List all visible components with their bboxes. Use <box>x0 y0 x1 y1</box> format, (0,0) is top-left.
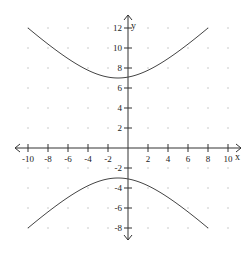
hyperbola-graph: x y -10-8-6-4-224681012108642-2-4-6-8 <box>0 0 252 257</box>
grid-dot <box>168 28 169 29</box>
grid-dot <box>108 68 109 69</box>
grid-dot <box>88 108 89 109</box>
grid-dot <box>68 208 69 209</box>
grid-dot <box>168 228 169 229</box>
grid-dot <box>68 168 69 169</box>
x-tick-label: 6 <box>186 154 191 164</box>
grid-dot <box>48 228 49 229</box>
grid-dot <box>148 188 149 189</box>
grid-dot <box>228 128 229 129</box>
grid-dot <box>188 108 189 109</box>
x-tick-label: 4 <box>166 154 171 164</box>
grid-dot <box>208 188 209 189</box>
grid-dot <box>48 108 49 109</box>
x-tick-label: 10 <box>224 154 234 164</box>
grid-dot <box>48 28 49 29</box>
grid-dot <box>88 128 89 129</box>
grid-dot <box>228 208 229 209</box>
grid-dot <box>28 128 29 129</box>
grid-dot <box>68 88 69 89</box>
grid-dot <box>148 168 149 169</box>
grid-dot <box>168 108 169 109</box>
x-tick-label: -8 <box>44 154 52 164</box>
grid-dot <box>208 108 209 109</box>
grid-dot <box>88 28 89 29</box>
grid-dot <box>208 128 209 129</box>
grid-dot <box>108 48 109 49</box>
grid-dot <box>28 108 29 109</box>
grid-dot <box>148 108 149 109</box>
grid-dot <box>48 168 49 169</box>
y-tick-label: -4 <box>115 183 123 193</box>
grid-dot <box>88 208 89 209</box>
grid-dot <box>48 188 49 189</box>
grid-dot <box>228 68 229 69</box>
grid-dot <box>228 228 229 229</box>
grid-dot <box>188 188 189 189</box>
grid-dot <box>48 88 49 89</box>
grid-dot <box>148 48 149 49</box>
grid-dot <box>68 48 69 49</box>
grid-dot <box>88 188 89 189</box>
grid-dot <box>188 168 189 169</box>
x-tick-label: -4 <box>84 154 92 164</box>
y-tick-label: 2 <box>118 123 123 133</box>
grid-dot <box>148 228 149 229</box>
grid-dot <box>188 208 189 209</box>
grid-dot <box>108 228 109 229</box>
grid-dot <box>108 128 109 129</box>
grid-dot <box>88 168 89 169</box>
grid-dot <box>168 88 169 89</box>
y-axis-label: y <box>131 20 136 31</box>
grid-dot <box>88 88 89 89</box>
grid-dot <box>148 208 149 209</box>
grid-dot <box>28 88 29 89</box>
grid-dot <box>108 28 109 29</box>
grid-dot <box>88 68 89 69</box>
grid-dot <box>208 68 209 69</box>
grid-dot <box>168 168 169 169</box>
grid-dot <box>108 168 109 169</box>
y-tick-label: -6 <box>115 203 123 213</box>
grid-dot <box>88 228 89 229</box>
grid-dot <box>68 108 69 109</box>
grid-dot <box>188 228 189 229</box>
grid-dot <box>28 68 29 69</box>
x-tick-label: -10 <box>22 154 34 164</box>
grid-dot <box>28 168 29 169</box>
grid-dot <box>168 128 169 129</box>
grid-dot <box>208 168 209 169</box>
x-axis-label: x <box>235 151 240 162</box>
grid-dot <box>108 88 109 89</box>
grid-dot <box>28 48 29 49</box>
grid-dot <box>148 28 149 29</box>
grid-dot <box>148 68 149 69</box>
grid-dot <box>228 108 229 109</box>
grid-dot <box>68 128 69 129</box>
grid-dot <box>208 208 209 209</box>
grid-dot <box>148 128 149 129</box>
grid-dot <box>68 68 69 69</box>
x-tick-label: 8 <box>206 154 211 164</box>
grid-dot <box>108 108 109 109</box>
grid-dot <box>48 68 49 69</box>
grid-dot <box>228 28 229 29</box>
grid-dot <box>68 28 69 29</box>
grid-dot <box>48 208 49 209</box>
grid-dot <box>68 188 69 189</box>
grid-dot <box>108 208 109 209</box>
grid-dot <box>208 48 209 49</box>
grid-dot <box>188 48 189 49</box>
grid-dot <box>228 168 229 169</box>
y-tick-label: 8 <box>118 63 123 73</box>
grid-dot <box>228 48 229 49</box>
grid-dot <box>188 88 189 89</box>
grid-dot <box>188 128 189 129</box>
x-tick-label: 2 <box>146 154 151 164</box>
grid-dot <box>88 48 89 49</box>
grid-dot <box>228 188 229 189</box>
grid-dot <box>228 88 229 89</box>
grid-dot <box>48 48 49 49</box>
y-tick-label: 10 <box>113 43 123 53</box>
grid-dot <box>48 128 49 129</box>
